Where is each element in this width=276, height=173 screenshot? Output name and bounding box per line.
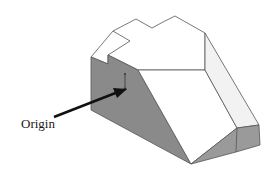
figure: Origin xyxy=(0,0,276,173)
origin-label: Origin xyxy=(21,116,55,132)
solid-part-drawing xyxy=(0,0,276,173)
